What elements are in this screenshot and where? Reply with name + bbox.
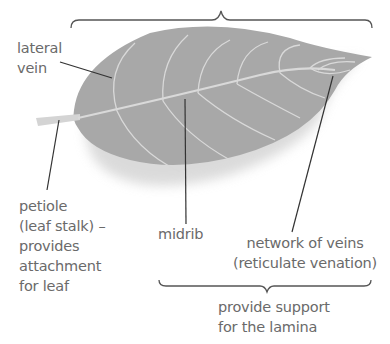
label-line: lateral	[17, 38, 62, 58]
top-brace	[71, 11, 372, 28]
label-line: attachment	[19, 256, 105, 276]
label-line: petiole	[19, 196, 105, 216]
lateral-vein-label: lateral vein	[17, 38, 62, 78]
label-line: network of veins	[225, 233, 385, 253]
label-line: for leaf	[19, 276, 105, 296]
bottom-brace	[159, 280, 371, 292]
label-line: for the lamina	[218, 317, 330, 337]
petiole-leader	[47, 120, 59, 190]
support-label: provide support for the lamina	[218, 297, 330, 337]
petiole-label: petiole (leaf stalk) – provides attachme…	[19, 196, 105, 296]
label-line: provides	[19, 236, 105, 256]
network-of-veins-label: network of veins (reticulate venation)	[225, 233, 385, 273]
label-line: provide support	[218, 297, 330, 317]
label-line: (leaf stalk) –	[19, 216, 105, 236]
midrib-label: midrib	[158, 224, 203, 244]
label-line: (reticulate venation)	[225, 253, 385, 273]
label-line: vein	[17, 58, 62, 78]
